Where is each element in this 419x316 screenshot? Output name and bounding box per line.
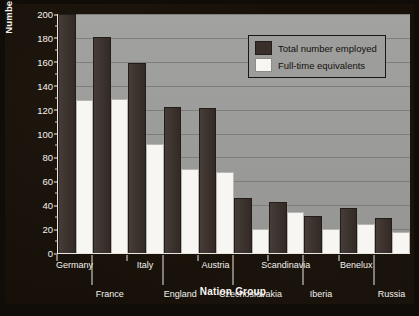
y-axis-tick-label: 120 (17, 104, 58, 115)
legend-item-full-time-equivalents: Full-time equivalents (255, 58, 377, 72)
bar-group (304, 216, 339, 253)
bar-england-total (164, 107, 182, 253)
x-axis-tick-label-austria: Austria (201, 260, 229, 270)
y-axis-tick-label: 0 (17, 248, 58, 259)
bar-benelux-total (340, 208, 358, 253)
y-axis-tick-label: 80 (17, 152, 58, 163)
x-axis-tick-label-italy: Italy (137, 260, 154, 270)
x-axis-tick-mark (338, 255, 339, 261)
legend-swatch-light (255, 58, 272, 72)
y-axis-tick-label: 20 (17, 224, 58, 235)
bar-group (128, 63, 163, 253)
bar-scandinavia-fulltime (287, 212, 305, 253)
x-axis-tick-mark (303, 255, 304, 285)
bar-iberia-total (304, 216, 322, 253)
bar-czechoslovakia-total (234, 198, 252, 253)
bar-group (58, 14, 93, 253)
x-axis-tick-mark (197, 255, 198, 261)
bar-france-fulltime (111, 99, 129, 253)
bar-russia-fulltime (392, 232, 410, 254)
bar-austria-fulltime (216, 172, 234, 253)
bar-england-fulltime (181, 169, 199, 253)
bar-group (375, 218, 410, 253)
bar-group (164, 107, 199, 253)
bar-group (269, 202, 304, 253)
figure: 020406080100120140160180200 Total number… (0, 0, 419, 316)
x-axis-tick-mark (162, 255, 163, 285)
y-axis-tick-label: 140 (17, 80, 58, 91)
y-axis-tick-label: 100 (17, 128, 58, 139)
plot-area: 020406080100120140160180200 Total number… (57, 14, 410, 254)
bar-austria-total (199, 108, 217, 253)
x-axis-tick-mark (127, 255, 128, 261)
y-axis-tick-label: 200 (17, 9, 58, 20)
y-axis-tick-label: 160 (17, 56, 58, 67)
x-axis-tick-mark (268, 255, 269, 261)
bar-group (93, 37, 128, 253)
x-axis-tick-label-benelux: Benelux (340, 260, 373, 270)
legend-swatch-dark (255, 41, 272, 55)
y-axis-tick-label: 60 (17, 176, 58, 187)
legend-label-total-number-employed: Total number employed (278, 43, 377, 54)
bar-benelux-fulltime (357, 224, 375, 253)
bar-italy-total (128, 63, 146, 253)
bar-iberia-fulltime (322, 229, 340, 253)
y-axis-title: Number of Composers (3, 0, 14, 56)
figure-panel: 020406080100120140160180200 Total number… (5, 4, 414, 304)
bar-france-total (93, 37, 111, 253)
x-axis-tick-label-germany: Germany (56, 260, 93, 270)
y-axis-tick-label: 40 (17, 200, 58, 211)
y-axis-tick-label: 180 (17, 32, 58, 43)
x-axis-tick-mark (233, 255, 234, 285)
bar-italy-fulltime (146, 144, 164, 253)
bar-germany-total (58, 14, 76, 253)
bar-group (234, 198, 269, 253)
x-axis-tick-mark (92, 255, 93, 285)
bar-czechoslovakia-fulltime (252, 229, 270, 253)
legend-label-full-time-equivalents: Full-time equivalents (278, 60, 365, 71)
bar-group (199, 108, 234, 253)
bar-group (340, 208, 375, 253)
bar-russia-total (375, 218, 393, 253)
bar-scandinavia-total (269, 202, 287, 253)
x-axis-tick-mark (373, 255, 374, 285)
legend: Total number employed Full-time equivale… (248, 35, 386, 78)
x-axis-tick-mark (57, 255, 58, 261)
legend-item-total-number-employed: Total number employed (255, 41, 377, 55)
x-axis-title: Nation Group (57, 286, 409, 297)
bar-germany-fulltime (76, 100, 94, 253)
